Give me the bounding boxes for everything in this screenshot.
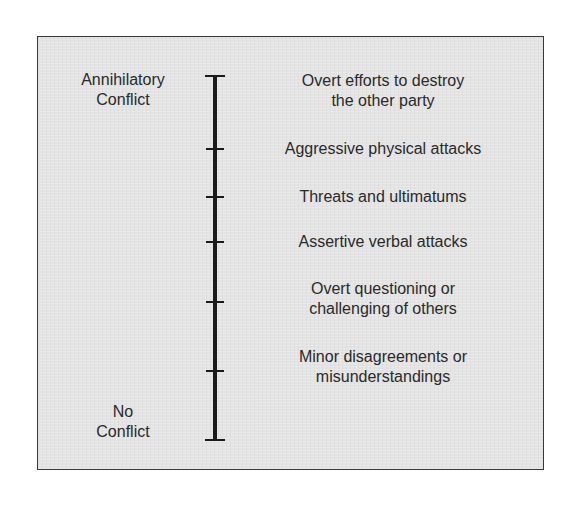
level-overt-questioning: Overt questioning or challenging of othe… [238,279,528,319]
level-text: Assertive verbal attacks [238,232,528,252]
bottom-label-line-1: No [38,402,208,422]
level-text: Aggressive physical attacks [238,139,528,159]
conflict-scale-axis [213,76,217,440]
top-extreme-label: Annihilatory Conflict [38,70,208,110]
bottom-extreme-label: No Conflict [38,402,208,442]
level-text: Minor disagreements or [238,347,528,367]
level-text: misunderstandings [238,367,528,387]
level-text: Overt efforts to destroy [238,71,528,91]
tick-assertive [206,241,224,243]
level-text: Threats and ultimatums [238,187,528,207]
bottom-label-line-2: Conflict [38,422,208,442]
level-aggressive-physical-attacks: Aggressive physical attacks [238,139,528,159]
level-text: the other party [238,91,528,111]
tick-questioning [206,301,224,303]
top-label-line-2: Conflict [38,90,208,110]
tick-minor [206,370,224,372]
level-threats-ultimatums: Threats and ultimatums [238,187,528,207]
level-minor-disagreements: Minor disagreements or misunderstandings [238,347,528,387]
level-assertive-verbal-attacks: Assertive verbal attacks [238,232,528,252]
tick-bottom [205,439,225,441]
level-text: Overt questioning or [238,279,528,299]
level-overt-efforts-destroy: Overt efforts to destroy the other party [238,71,528,111]
level-text: challenging of others [238,299,528,319]
tick-aggressive [206,148,224,150]
top-label-line-1: Annihilatory [38,70,208,90]
tick-top [205,75,225,77]
tick-threats [206,196,224,198]
